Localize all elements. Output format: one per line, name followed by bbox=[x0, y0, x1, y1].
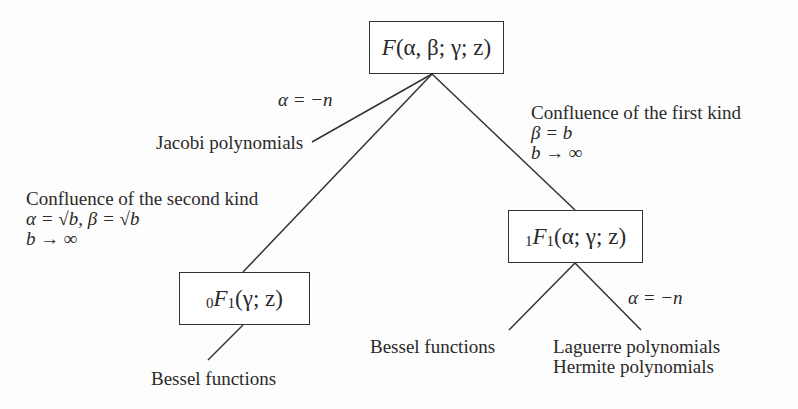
node-kummer-1F1: 1F1(α; γ; z) bbox=[508, 210, 643, 263]
first-kind-title: Confluence of the first kind bbox=[531, 103, 741, 123]
first-kind-limit: b → ∞ bbox=[531, 143, 583, 163]
bessel-label-left: Bessel functions bbox=[151, 369, 276, 389]
edge-confluent0-bessel bbox=[208, 325, 243, 360]
jacobi-label: Jacobi polynomials bbox=[156, 133, 303, 153]
edge-root-confluent0 bbox=[243, 74, 432, 272]
func-prefix: 1 bbox=[525, 233, 533, 250]
func-sub: 1 bbox=[228, 295, 236, 312]
edge-kummer-bessel bbox=[509, 263, 575, 330]
first-kind-condition: β = b bbox=[531, 123, 572, 143]
func-name: F bbox=[382, 35, 396, 61]
hypergeometric-diagram: F(α, β; γ; z) 1F1(α; γ; z) 0F1(γ; z) α =… bbox=[0, 0, 798, 409]
second-kind-title: Confluence of the second kind bbox=[26, 189, 258, 209]
node-confluent-0F1: 0F1(γ; z) bbox=[179, 272, 310, 325]
laguerre-condition: α = −n bbox=[628, 288, 683, 308]
func-args: (α; γ; z) bbox=[554, 224, 626, 250]
jacobi-condition: α = −n bbox=[278, 90, 333, 110]
func-name: F bbox=[532, 224, 546, 250]
func-args: (α, β; γ; z) bbox=[396, 35, 491, 61]
func-name: F bbox=[214, 286, 228, 312]
node-root-hypergeometric: F(α, β; γ; z) bbox=[369, 21, 504, 74]
laguerre-label: Laguerre polynomials bbox=[553, 337, 720, 357]
func-args: (γ; z) bbox=[235, 286, 283, 312]
hermite-label: Hermite polynomials bbox=[553, 357, 714, 377]
second-kind-condition: α = √b, β = √b bbox=[26, 209, 139, 229]
bessel-label-right: Bessel functions bbox=[370, 337, 495, 357]
func-prefix: 0 bbox=[206, 295, 214, 312]
func-sub: 1 bbox=[547, 233, 555, 250]
second-kind-limit: b → ∞ bbox=[26, 229, 78, 249]
